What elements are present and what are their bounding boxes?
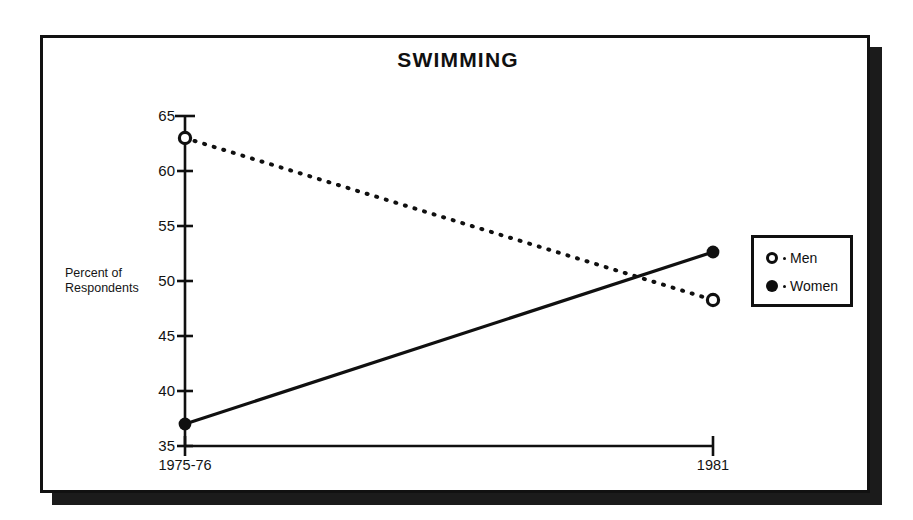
plot-area: Percent of Respondents 65 60 55 50 45 40… — [43, 38, 873, 496]
series-line-women — [185, 252, 713, 424]
chart-legend: Men Women — [751, 235, 853, 307]
legend-label-women: Women — [790, 278, 838, 294]
dot-icon — [783, 257, 786, 260]
legend-entry-men: Men — [766, 248, 817, 268]
filled-circle-icon — [766, 280, 778, 292]
chart-frame: SWIMMING Percent of Respondents 65 60 55… — [40, 35, 870, 493]
chart-svg — [43, 38, 873, 496]
series-line-men — [185, 138, 713, 300]
data-point-men-1975-76 — [179, 132, 190, 143]
data-point-men-1981 — [707, 294, 718, 305]
legend-entry-women: Women — [766, 276, 838, 296]
open-circle-icon — [766, 252, 778, 264]
dot-icon — [783, 285, 786, 288]
data-point-women-1975-76 — [179, 418, 192, 431]
legend-label-men: Men — [790, 250, 817, 266]
chart-figure: SWIMMING Percent of Respondents 65 60 55… — [0, 0, 913, 520]
data-point-women-1981 — [707, 246, 720, 259]
